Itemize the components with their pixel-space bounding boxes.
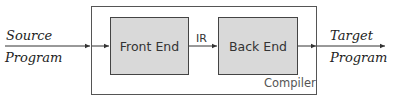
back-end-box: Back End bbox=[218, 17, 298, 75]
program-input-label: Program bbox=[5, 50, 62, 65]
back-end-label: Back End bbox=[229, 39, 287, 54]
compiler-label: Compiler bbox=[264, 76, 316, 90]
front-end-box: Front End bbox=[110, 17, 189, 75]
front-end-label: Front End bbox=[120, 39, 179, 54]
source-label: Source bbox=[6, 28, 52, 43]
compiler-diagram: Front End Back End IR Compiler Source Pr… bbox=[0, 0, 406, 101]
target-label: Target bbox=[330, 28, 373, 43]
ir-edge-label: IR bbox=[196, 32, 207, 45]
program-output-label: Program bbox=[330, 50, 387, 65]
